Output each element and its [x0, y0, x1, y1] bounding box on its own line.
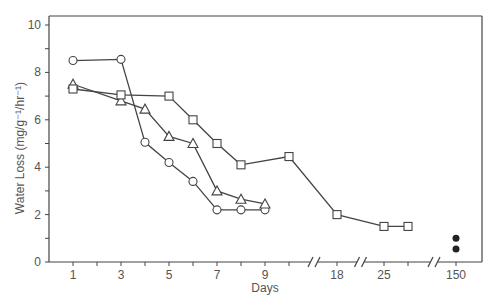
y-tick-label: 10	[28, 18, 42, 32]
triangle-marker-icon	[236, 194, 246, 203]
x-axis: 135791825150	[70, 262, 467, 282]
y-axis: 0246810	[28, 18, 49, 269]
circle-marker-icon	[165, 158, 173, 166]
square-marker-icon	[380, 222, 388, 230]
y-tick-label: 2	[34, 208, 41, 222]
y-tick-label: 4	[34, 160, 41, 174]
square-marker-icon	[165, 92, 173, 100]
x-tick-label: 7	[214, 268, 221, 282]
filled-circle-marker-icon	[453, 245, 460, 252]
x-tick-label: 9	[262, 268, 269, 282]
y-tick-label: 6	[34, 113, 41, 127]
square-marker-icon	[117, 91, 125, 99]
circle-marker-icon	[117, 55, 125, 63]
square-marker-icon	[213, 140, 221, 148]
circle-marker-icon	[69, 57, 77, 65]
triangle-marker-icon	[140, 104, 150, 113]
circle-marker-icon	[237, 206, 245, 214]
x-tick-label: 18	[330, 268, 344, 282]
x-axis-title: Days	[251, 281, 278, 295]
square-marker-icon	[237, 161, 245, 169]
x-tick-label: 5	[166, 268, 173, 282]
y-axis-title: Water Loss (mg/g⁻¹/hr⁻¹)	[13, 82, 27, 214]
square-marker-icon	[404, 222, 412, 230]
data-series	[68, 55, 460, 252]
circle-marker-icon	[141, 138, 149, 146]
plot-frame	[49, 16, 482, 267]
y-tick-label: 8	[34, 65, 41, 79]
square-marker-icon	[189, 116, 197, 124]
water-loss-chart: 0246810 135791825150 Days Water Loss (mg…	[0, 0, 497, 302]
x-tick-label: 1	[70, 268, 77, 282]
square-marker-icon	[69, 85, 77, 93]
x-tick-label: 150	[446, 268, 466, 282]
series-filled-circles	[453, 235, 460, 253]
x-tick-label: 3	[118, 268, 125, 282]
square-marker-icon	[285, 153, 293, 161]
triangle-marker-icon	[212, 186, 222, 195]
circle-marker-icon	[213, 206, 221, 214]
circle-marker-icon	[189, 177, 197, 185]
square-marker-icon	[333, 211, 341, 219]
y-tick-label: 0	[34, 255, 41, 269]
x-tick-label: 25	[377, 268, 391, 282]
filled-circle-marker-icon	[453, 235, 460, 242]
series-line	[73, 84, 265, 204]
